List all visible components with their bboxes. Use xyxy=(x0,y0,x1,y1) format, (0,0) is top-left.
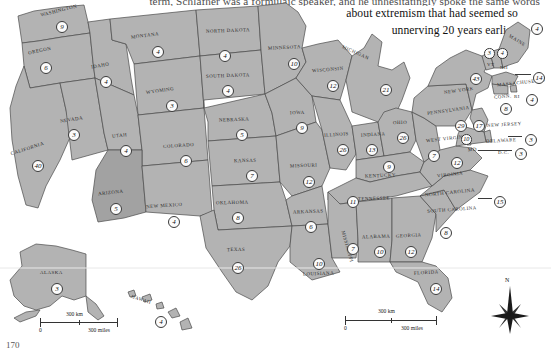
electoral-votes-badge-ok: 8 xyxy=(232,212,244,224)
scale-bar-inset-tick-1 xyxy=(79,320,80,325)
electoral-votes-badge-al: 10 xyxy=(374,246,386,258)
electoral-votes-badge-az: 5 xyxy=(110,203,122,215)
scale-bar-main-tick-2 xyxy=(436,316,437,325)
electoral-votes-badge-ma: 14 xyxy=(533,72,545,84)
scale-bar-main-tick-1 xyxy=(391,318,392,323)
state-label-mo: MISSOURI xyxy=(290,163,318,169)
electoral-votes-badge-co: 6 xyxy=(180,155,192,167)
electoral-votes-badge-ny: 43 xyxy=(470,73,482,85)
electoral-votes-badge-pa: 29 xyxy=(455,120,467,132)
electoral-votes-badge-fl: 14 xyxy=(430,283,442,295)
leader-line-ma xyxy=(515,74,531,75)
scale-bar-main-miles: 300 miles xyxy=(401,325,423,331)
electoral-votes-badge-il: 26 xyxy=(337,144,349,156)
state-label-nh: NH xyxy=(500,65,508,70)
state-label-tx: TEXAS xyxy=(227,247,245,252)
electoral-votes-badge-ak: 3 xyxy=(51,283,63,295)
scale-bar-inset-km: 300 km xyxy=(66,311,83,317)
electoral-votes-badge-mo: 12 xyxy=(303,176,315,188)
scale-bar-main-km: 300 km xyxy=(378,308,395,314)
electoral-votes-badge-ct: 8 xyxy=(500,103,512,115)
scale-bar-inset-miles: 300 miles xyxy=(88,327,110,333)
electoral-votes-badge-md: 10 xyxy=(461,134,472,145)
electoral-votes-badge-ut: 4 xyxy=(120,145,132,157)
state-label-dc: D.C. xyxy=(498,150,509,155)
scale-bar-inset-tick-2 xyxy=(117,318,118,327)
state-label-vt: VT xyxy=(487,62,495,67)
map-page: term, Schlafher was a formulaic speaker,… xyxy=(0,0,551,356)
state-label-ri: RI xyxy=(514,94,520,99)
scale-bar-inset: 300 km 0 300 miles xyxy=(40,312,124,336)
electoral-votes-badge-me: 4 xyxy=(531,23,543,35)
electoral-votes-badge-nj: 17 xyxy=(473,120,485,132)
scale-bar-main-tick-0 xyxy=(345,316,346,325)
electoral-votes-badge-nv: 3 xyxy=(68,129,80,141)
state-label-ks: KANSAS xyxy=(234,158,257,163)
electoral-votes-badge-nc: 15 xyxy=(494,196,506,208)
electoral-votes-badge-wi: 12 xyxy=(327,80,339,92)
scale-bar-main: 300 km 0 300 miles xyxy=(345,310,445,336)
compass-north-label: N xyxy=(505,277,509,283)
state-label-ne: NEBRASKA xyxy=(219,116,250,122)
scale-bar-inset-tick-0 xyxy=(40,318,41,327)
electoral-votes-badge-ms: 7 xyxy=(347,243,359,255)
electoral-votes-badge-tx: 26 xyxy=(232,262,244,274)
state-shape-CO xyxy=(138,108,208,166)
electoral-votes-badge-vt: 3 xyxy=(484,48,495,59)
electoral-votes-badge-ky: 9 xyxy=(383,161,395,173)
electoral-votes-badge-mn: 10 xyxy=(288,58,300,70)
electoral-votes-badge-id: 4 xyxy=(100,76,112,88)
electoral-votes-badge-nh: 4 xyxy=(497,48,508,59)
state-label-al: ALABAMA xyxy=(362,234,390,240)
electoral-votes-badge-ri: 4 xyxy=(526,94,538,106)
electoral-votes-badge-wa: 9 xyxy=(56,21,68,33)
state-label-ok: OKLAHOMA xyxy=(216,200,249,206)
state-shape-OK xyxy=(212,182,292,230)
electoral-votes-badge-nm: 4 xyxy=(168,216,180,228)
compass-rose-icon xyxy=(487,278,533,338)
electoral-votes-badge-dc: 3 xyxy=(515,148,527,160)
electoral-votes-badge-ks: 7 xyxy=(246,170,258,182)
state-label-oh: OHIO xyxy=(393,120,407,125)
leader-line-nc xyxy=(478,198,492,199)
electoral-votes-badge-ca: 40 xyxy=(32,160,44,172)
electoral-votes-badge-wy: 3 xyxy=(166,100,178,112)
compass-rose: N xyxy=(487,278,533,338)
electoral-votes-badge-ia: 9 xyxy=(296,122,308,134)
page-folio: 170 xyxy=(6,340,20,350)
us-electoral-map xyxy=(0,0,551,340)
electoral-votes-badge-or: 6 xyxy=(40,62,52,74)
state-label-ak: ALASKA xyxy=(40,270,63,275)
electoral-votes-badge-wv: 7 xyxy=(428,150,440,162)
alaska-aleutians xyxy=(14,310,40,322)
electoral-votes-badge-sd: 4 xyxy=(222,85,234,97)
electoral-votes-badge-nd: 4 xyxy=(219,50,231,62)
electoral-votes-badge-ga: 12 xyxy=(405,246,417,258)
state-label-ar: ARKANSAS xyxy=(293,208,324,214)
map-svg xyxy=(0,0,551,340)
electoral-votes-badge-ar: 6 xyxy=(305,221,317,233)
scale-bar-inset-zero: 0 xyxy=(39,327,42,333)
electoral-votes-badge-va: 12 xyxy=(451,157,463,169)
state-label-ia: IOWA xyxy=(290,110,305,116)
electoral-votes-badge-mt: 4 xyxy=(152,46,164,58)
leader-line-de xyxy=(508,136,522,137)
electoral-votes-badge-oh: 26 xyxy=(397,132,409,144)
electoral-votes-badge-la: 10 xyxy=(313,258,325,270)
electoral-votes-badge-mi: 21 xyxy=(380,84,392,96)
electoral-votes-badge-in: 13 xyxy=(366,144,378,156)
electoral-votes-badge-tn: 11 xyxy=(347,196,359,208)
state-shape-AK xyxy=(10,244,86,310)
electoral-votes-badge-sc: 8 xyxy=(440,227,452,239)
leader-line-dc xyxy=(478,150,512,151)
electoral-votes-badge-ne: 5 xyxy=(236,129,248,141)
electoral-votes-badge-hi: 4 xyxy=(155,316,167,328)
scale-bar-main-zero: 0 xyxy=(344,325,347,331)
electoral-votes-badge-de: 3 xyxy=(525,134,537,146)
